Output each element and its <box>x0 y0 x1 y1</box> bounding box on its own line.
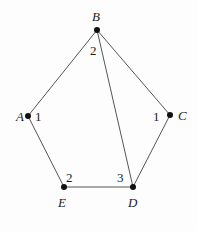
node-d <box>130 184 136 190</box>
angle-label-a: 1 <box>35 109 42 124</box>
vertex-label-c: C <box>178 108 187 123</box>
angle-label-d: 3 <box>117 170 124 185</box>
angle-label-e: 2 <box>66 170 73 185</box>
vertex-label-d: D <box>127 195 138 210</box>
edge-b-d <box>97 30 133 187</box>
vertex-label-b: B <box>92 9 100 24</box>
angle-labels: 2 1 1 2 3 <box>35 43 160 185</box>
edge-e-a <box>28 116 64 187</box>
edges <box>28 30 170 187</box>
edge-b-c <box>97 30 170 115</box>
nodes <box>25 27 173 190</box>
node-b <box>94 27 100 33</box>
angle-label-b: 2 <box>90 43 97 58</box>
graph-diagram: A B C D E 2 1 1 2 3 <box>0 0 197 231</box>
edge-c-d <box>133 115 170 187</box>
vertex-label-e: E <box>57 195 66 210</box>
edge-a-b <box>28 30 97 116</box>
node-a <box>25 113 31 119</box>
angle-label-c: 1 <box>153 109 160 124</box>
node-c <box>167 112 173 118</box>
vertex-label-a: A <box>15 109 24 124</box>
